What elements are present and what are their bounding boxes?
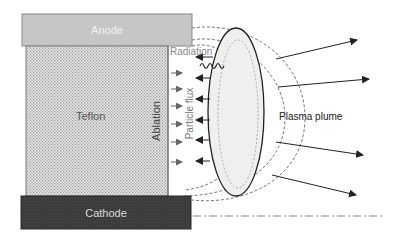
cathode-label: Cathode — [21, 207, 191, 219]
radiation-label: Radiation — [170, 46, 212, 57]
particle-flux-label: Particle flux — [184, 79, 195, 149]
anode-label: Anode — [22, 24, 192, 36]
teflon-label: Teflon — [76, 110, 105, 122]
plasma-plume-ellipse — [208, 28, 264, 196]
ablation-label: Ablation — [150, 91, 162, 151]
plasma-plume-label: Plasma plume — [279, 111, 342, 122]
ablation-arrows — [171, 73, 182, 162]
